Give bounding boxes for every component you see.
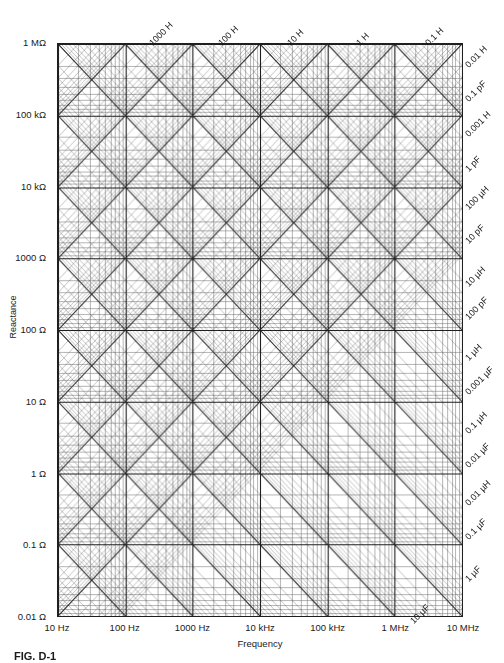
edge-lc-label: 0.1 µF: [464, 517, 489, 542]
edge-lc-label: 10 pF: [464, 223, 487, 246]
y-tick-label: 1 MΩ: [23, 38, 52, 48]
edge-lc-label: 0.001 µF: [464, 365, 496, 397]
edge-lc-label: 0.01 H: [464, 45, 489, 70]
y-tick-label: 0.01 Ω: [18, 612, 52, 622]
edge-lc-label: 0.1 pF: [464, 79, 488, 103]
x-axis-title: Frequency: [57, 638, 463, 649]
x-axis-tick-labels: 10 Hz100 Hz1000 Hz10 kHz100 kHz1 MHz10 M…: [57, 622, 463, 638]
y-tick-label: 10 kΩ: [21, 182, 52, 192]
figure-caption: FIG. D-1: [14, 650, 56, 662]
x-tick-label: 10 MHz: [447, 622, 480, 633]
x-tick-label: 1000 Hz: [175, 622, 210, 633]
y-axis-title: Reactance: [8, 282, 18, 352]
y-tick-label: 1000 Ω: [15, 253, 52, 263]
edge-lc-label: 1 pF: [464, 155, 483, 174]
edge-lc-label: 10 µH: [464, 265, 487, 288]
y-tick-label: 10 Ω: [26, 397, 52, 407]
x-tick-label: 10 kHz: [245, 622, 275, 633]
edge-lc-label: 100 pF: [464, 295, 490, 321]
edge-lc-label: 0.001 H: [464, 110, 493, 139]
x-tick-label: 100 Hz: [110, 622, 140, 633]
edge-lc-label: 1 µH: [464, 343, 484, 363]
edge-lc-label: 0.1 µH: [464, 410, 489, 435]
edge-lc-label: 1 µF: [464, 564, 483, 583]
y-tick-label: 1 Ω: [31, 469, 52, 479]
edge-lc-label: 100 µH: [464, 185, 491, 212]
edge-lc-label: 0.01 µH: [464, 479, 493, 508]
reactance-nomogram-plot: [57, 43, 463, 617]
y-tick-label: 100 kΩ: [16, 110, 52, 120]
y-tick-label: 100 Ω: [20, 325, 52, 335]
log-log-grid-canvas: [58, 44, 462, 616]
x-tick-label: 1 MHz: [382, 622, 409, 633]
x-tick-label: 100 kHz: [310, 622, 345, 633]
y-tick-label: 0.1 Ω: [23, 540, 52, 550]
x-tick-label: 10 Hz: [45, 622, 70, 633]
edge-lc-label: 0.01 µF: [464, 442, 492, 470]
